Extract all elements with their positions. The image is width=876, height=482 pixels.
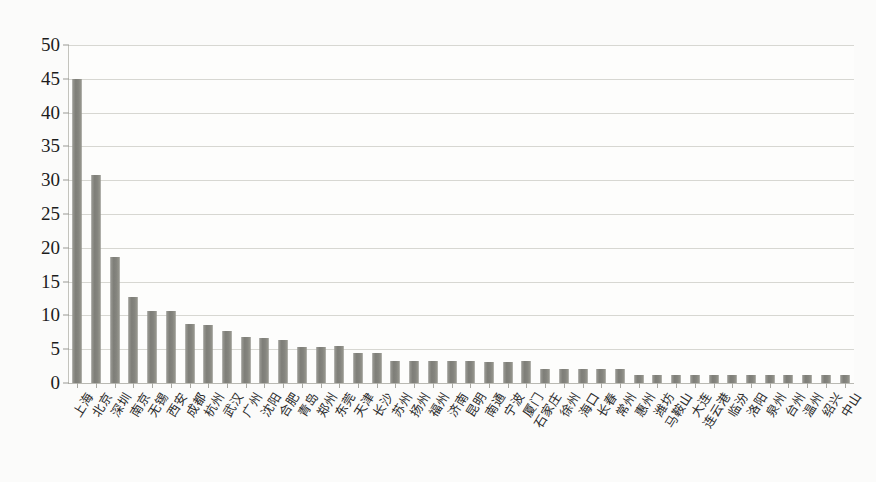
bar-slot (742, 45, 761, 383)
bar (110, 257, 119, 383)
bar-slot (611, 45, 630, 383)
bar-slot (461, 45, 480, 383)
bar-slot (817, 45, 836, 383)
bar-slot (293, 45, 312, 383)
y-tick-label: 0 (18, 372, 60, 394)
y-tick-label: 35 (18, 135, 60, 157)
bar-slot (536, 45, 555, 383)
bar (92, 175, 101, 383)
bar-slot (218, 45, 237, 383)
bar-slot (143, 45, 162, 383)
y-tick-label: 15 (18, 271, 60, 293)
bar-slot (760, 45, 779, 383)
bar-slot (162, 45, 181, 383)
bar-slot (255, 45, 274, 383)
y-tick-label: 50 (18, 34, 60, 56)
bar-slot (236, 45, 255, 383)
bar-slot (573, 45, 592, 383)
bar-slot (835, 45, 854, 383)
bar-slot (311, 45, 330, 383)
bar-slot (498, 45, 517, 383)
bar-slot (555, 45, 574, 383)
bar-slot (349, 45, 368, 383)
y-tick-label: 10 (18, 304, 60, 326)
bar-slot (723, 45, 742, 383)
bar-slot (367, 45, 386, 383)
bar-slot (648, 45, 667, 383)
bar-slot (405, 45, 424, 383)
bar-slot (386, 45, 405, 383)
bar-slot (779, 45, 798, 383)
bar-slot (704, 45, 723, 383)
bar (73, 79, 82, 383)
y-tick-label: 25 (18, 203, 60, 225)
x-axis-tick-labels: 上海北京深圳南京无锡西安成都杭州武汉广州沈阳合肥青岛郑州东莞天津长沙苏州扬州福州… (68, 388, 854, 480)
y-tick-label: 45 (18, 68, 60, 90)
bar-slot (686, 45, 705, 383)
bar-slot (667, 45, 686, 383)
bar-slot (105, 45, 124, 383)
bar-slot (87, 45, 106, 383)
y-tick-label: 5 (18, 338, 60, 360)
bar-slot (592, 45, 611, 383)
y-tick-label: 20 (18, 237, 60, 259)
bar-slot (517, 45, 536, 383)
bar-slot (180, 45, 199, 383)
bar-slot (442, 45, 461, 383)
bar-slot (274, 45, 293, 383)
bar-slot (424, 45, 443, 383)
bar-slot (199, 45, 218, 383)
bar-slot (798, 45, 817, 383)
y-tick-label: 40 (18, 102, 60, 124)
bar-slot (124, 45, 143, 383)
bar-slot (68, 45, 87, 383)
bar-chart-figure: 05101520253035404550 上海北京深圳南京无锡西安成都杭州武汉广… (0, 0, 876, 482)
bar-slot (629, 45, 648, 383)
bar-slot (330, 45, 349, 383)
y-tick-label: 30 (18, 169, 60, 191)
bar-slot (480, 45, 499, 383)
bar-series (68, 45, 854, 383)
